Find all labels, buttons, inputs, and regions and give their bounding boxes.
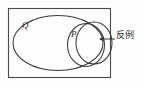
label-counterexample-annotation: 反例 — [116, 31, 134, 40]
circle-counterexample — [76, 22, 112, 64]
figure-canvas: Q P 反例 — [0, 0, 143, 86]
label-set-q: Q — [22, 21, 29, 30]
set-diagram-svg — [0, 0, 143, 86]
universe-rectangle — [9, 9, 111, 78]
label-set-p: P — [71, 30, 77, 39]
annotation-arrowhead-icon — [99, 37, 104, 42]
